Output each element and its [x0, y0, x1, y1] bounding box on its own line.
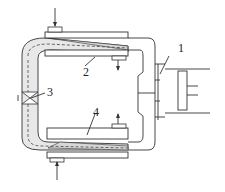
arrow-up-icon — [116, 113, 120, 118]
label-1: 1 — [178, 41, 184, 55]
label-4: 4 — [93, 105, 99, 119]
label-3: 3 — [47, 85, 53, 99]
label-2: 2 — [83, 65, 89, 79]
schematic-diagram: 1 2 3 4 — [0, 0, 225, 192]
arrow-down-icon — [53, 22, 57, 27]
arrow-down-icon — [116, 66, 120, 71]
housing-frame — [128, 38, 155, 150]
drive-unit — [155, 64, 210, 120]
